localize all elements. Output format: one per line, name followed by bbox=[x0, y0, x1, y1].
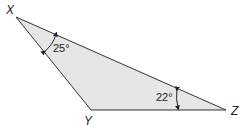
triangle-xyz bbox=[16, 17, 226, 110]
angle-label-x: 25° bbox=[53, 42, 70, 54]
vertex-label-x: X bbox=[5, 3, 15, 17]
vertex-label-z: Z bbox=[230, 104, 239, 118]
angle-label-z: 22° bbox=[156, 91, 173, 103]
triangle-diagram: X Y Z 25° 22° bbox=[0, 0, 251, 130]
vertex-label-y: Y bbox=[84, 114, 93, 128]
